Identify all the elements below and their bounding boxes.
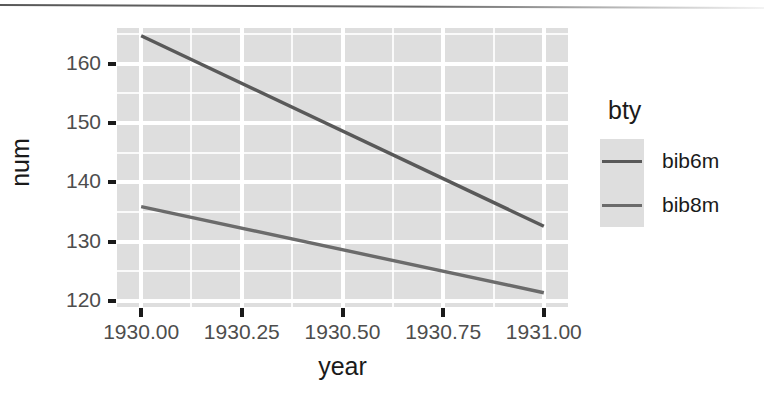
x-tick-label: 1931.00	[484, 320, 604, 344]
legend-key-line-icon	[602, 160, 642, 163]
x-axis-title: year	[117, 352, 568, 381]
y-tick-mark	[108, 299, 116, 303]
y-tick-mark	[108, 121, 116, 125]
y-tick-label: 120	[0, 288, 101, 312]
x-tick-mark	[542, 308, 546, 317]
series-line-bib6m	[141, 36, 544, 227]
legend-key-swatch	[600, 139, 644, 183]
legend: bty bib6mbib8m	[600, 96, 760, 227]
legend-title: bty	[608, 96, 760, 125]
x-tick-mark	[139, 308, 143, 317]
plot-panel	[117, 28, 568, 307]
legend-key-swatch	[600, 183, 644, 227]
legend-item-bib8m[interactable]: bib8m	[600, 183, 760, 227]
x-tick-mark	[441, 308, 445, 317]
chart-figure: 120130140150160 num 1930.001930.251930.5…	[0, 0, 764, 399]
y-tick-label: 150	[0, 110, 101, 134]
y-tick-label: 130	[0, 229, 101, 253]
y-tick-mark	[108, 62, 116, 66]
x-tick-mark	[341, 308, 345, 317]
legend-items: bib6mbib8m	[600, 139, 760, 227]
legend-item-bib6m[interactable]: bib6m	[600, 139, 760, 183]
y-tick-mark	[108, 240, 116, 244]
y-tick-mark	[108, 180, 116, 184]
legend-item-label: bib6m	[662, 149, 719, 173]
series-layer	[117, 28, 568, 307]
legend-item-label: bib8m	[662, 193, 719, 217]
y-axis-title: num	[6, 138, 35, 187]
legend-key-line-icon	[602, 204, 642, 207]
x-tick-mark	[240, 308, 244, 317]
y-tick-label: 160	[0, 51, 101, 75]
series-line-bib8m	[141, 207, 544, 293]
